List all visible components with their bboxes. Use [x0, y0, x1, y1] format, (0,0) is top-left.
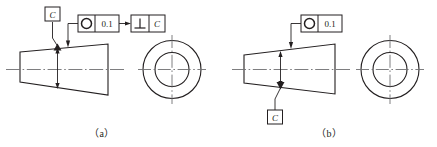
technical-drawing-canvas: C 0.1 C: [0, 0, 437, 147]
figure-a-datum-leader-segment: [53, 38, 58, 46]
figure-a-datum-letter: C: [49, 10, 56, 20]
figure-a-perpendicularity-frame[interactable]: C: [131, 15, 165, 32]
figure-b-circularity-frame[interactable]: 0.1: [301, 15, 342, 32]
drawing-sheet: C 0.1 C: [0, 0, 437, 147]
figure-b-outer-circle: [361, 41, 419, 99]
figure-a-frame-leader-arrow: [66, 41, 70, 48]
figure-b-circularity-frame-box[interactable]: [301, 15, 342, 32]
figure-b-datum-letter: C: [272, 113, 279, 123]
figure-a: C 0.1 C: [6, 7, 206, 104]
figure-b: 0.1 C: [232, 15, 424, 124]
figure-a-circularity-frame-box[interactable]: [78, 15, 119, 32]
figure-a-circularity-frame[interactable]: 0.1: [78, 15, 119, 32]
figure-b-frame-leader-arrow: [289, 42, 293, 49]
figure-a-circularity-tolerance: 0.1: [101, 19, 112, 29]
figure-b-dimension-arrow-top: [278, 51, 282, 57]
figure-a-caption: （a）: [89, 125, 115, 140]
figure-b-circularity-tolerance: 0.1: [324, 19, 335, 29]
figure-b-end-view: [356, 35, 424, 104]
figure-b-datum-leader-segment: [275, 88, 281, 99]
figure-a-end-view: [138, 35, 206, 104]
figure-b-caption: （b）: [316, 125, 343, 140]
figure-a-outer-circle: [143, 41, 201, 99]
figure-a-datum-triangle: [54, 44, 62, 51]
figure-a-frames-connector-arrow: [125, 21, 131, 25]
figure-b-cone-outline: [244, 44, 335, 94]
figure-a-perpendicularity-datum: C: [154, 19, 161, 29]
